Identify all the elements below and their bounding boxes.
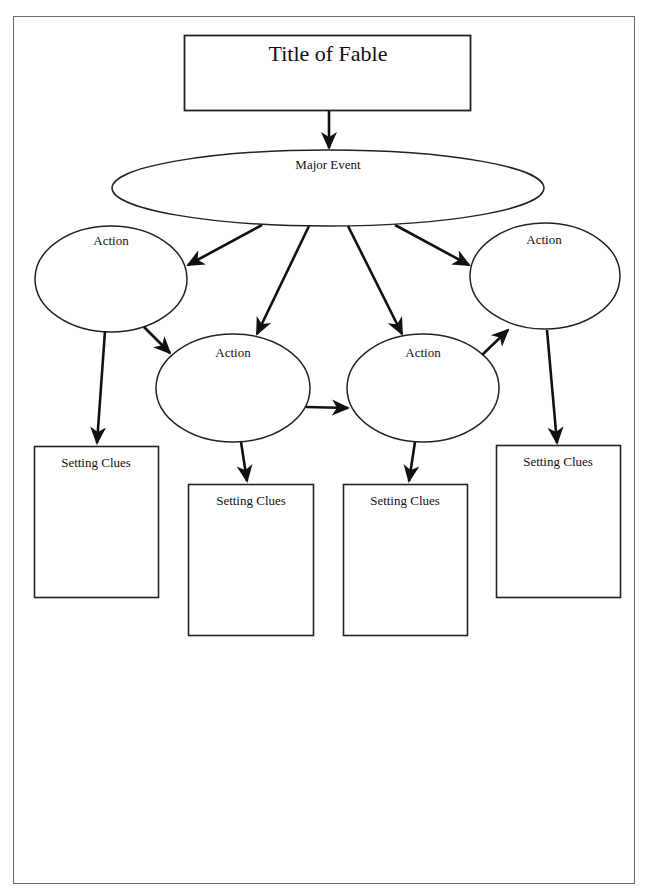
action-label-1: Action bbox=[93, 233, 128, 249]
arrow-action-2-to-action-3 bbox=[306, 407, 348, 408]
action-label-3: Action bbox=[405, 345, 440, 361]
major-event-label: Major Event bbox=[295, 157, 360, 173]
arrow-event-to-action-1 bbox=[188, 225, 262, 265]
arrow-event-to-action-3 bbox=[348, 226, 402, 334]
diagram-canvas bbox=[0, 0, 650, 891]
arrow-event-to-action-4 bbox=[395, 225, 469, 265]
arrow-action-1-to-action-2 bbox=[144, 327, 170, 353]
title-label: Title of Fable bbox=[269, 41, 388, 67]
arrow-action-2-to-setting-2 bbox=[241, 442, 247, 481]
arrow-action-4-to-setting-4 bbox=[547, 330, 557, 443]
arrow-event-to-action-2 bbox=[257, 226, 309, 334]
setting-label-4: Setting Clues bbox=[523, 454, 593, 470]
setting-label-3: Setting Clues bbox=[370, 493, 440, 509]
arrow-action-3-to-setting-3 bbox=[409, 442, 415, 481]
arrow-action-3-to-action-4 bbox=[482, 330, 508, 355]
setting-label-2: Setting Clues bbox=[216, 493, 286, 509]
setting-label-1: Setting Clues bbox=[61, 455, 131, 471]
arrow-action-1-to-setting-1 bbox=[97, 331, 105, 443]
action-label-4: Action bbox=[526, 232, 561, 248]
action-label-2: Action bbox=[215, 345, 250, 361]
